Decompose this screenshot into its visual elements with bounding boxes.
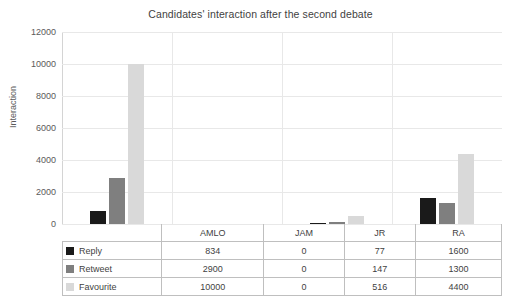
bar [458,154,474,224]
table-row-label: Retweet [63,260,162,278]
table-cell: 4400 [415,278,501,296]
bar [128,64,144,224]
y-tick-label: 6000 [36,123,56,133]
bar-group [392,32,502,224]
chart-title: Candidates' interaction after the second… [0,8,521,20]
y-tick-label: 12000 [31,27,56,37]
bar-group [62,32,172,224]
table-cell: 1600 [415,242,501,260]
table-column-header: JR [344,224,415,242]
bar [90,211,106,224]
legend-swatch-icon [66,283,74,291]
y-tick-label: 0 [51,219,56,229]
table-row: Reply8340771600 [63,242,502,260]
data-table: AMLOJAMJRRAReply8340771600Retweet2900014… [62,224,502,296]
table-row: Favourite1000005164400 [63,278,502,296]
y-tick-label: 8000 [36,91,56,101]
chart-container: Candidates' interaction after the second… [0,0,521,299]
bar-group [172,32,282,224]
table-cell: 834 [162,242,264,260]
bar [348,216,364,224]
legend-swatch-icon [66,247,74,255]
bar [439,203,455,224]
table-cell: 1300 [415,260,501,278]
table-cell: 516 [344,278,415,296]
table-cell: 77 [344,242,415,260]
table-cell: 0 [264,242,344,260]
y-axis-label: Interaction [8,86,18,128]
table-column-header: RA [415,224,501,242]
bar-group [282,32,392,224]
series-name: Reply [79,246,102,256]
table-row-label: Favourite [63,278,162,296]
table-cell: 0 [264,260,344,278]
table-column-header: JAM [264,224,344,242]
series-name: Retweet [79,264,112,274]
bar [109,178,125,224]
series-name: Favourite [79,282,117,292]
table-column-header: AMLO [162,224,264,242]
y-tick-label: 4000 [36,155,56,165]
plot-area: 020004000600080001000012000 [62,32,502,224]
table-cell: 2900 [162,260,264,278]
table-cell: 10000 [162,278,264,296]
bar [420,198,436,224]
table-row-label: Reply [63,242,162,260]
table-cell: 147 [344,260,415,278]
table-corner-cell [63,224,162,242]
table-cell: 0 [264,278,344,296]
legend-swatch-icon [66,265,74,273]
y-tick-label: 10000 [31,59,56,69]
y-tick-label: 2000 [36,187,56,197]
table-header-row: AMLOJAMJRRA [63,224,502,242]
table-row: Retweet290001471300 [63,260,502,278]
